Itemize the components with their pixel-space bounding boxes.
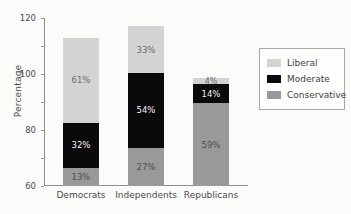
- segment-value-label: 54%: [128, 105, 164, 115]
- legend-label: Moderate: [287, 74, 330, 84]
- bar-republicans: 4%14%59%: [193, 78, 229, 186]
- segment-conservative: 27%: [128, 148, 164, 186]
- bar-independents: 33%54%27%: [128, 26, 164, 186]
- plot-area: 020406080100120 61%32%13%33%54%27%4%14%5…: [44, 18, 248, 186]
- segment-value-label: 14%: [193, 89, 229, 99]
- y-axis-title: Percentage: [13, 46, 23, 136]
- legend-item-conservative[interactable]: Conservative: [267, 87, 338, 103]
- segment-conservative: 59%: [193, 103, 229, 186]
- y-tick-mark: 100: [41, 46, 44, 47]
- y-tick-label: 100: [20, 69, 36, 79]
- x-category-label-republicans: Republicans: [184, 190, 238, 200]
- x-category-label-democrats: Democrats: [56, 190, 105, 200]
- y-tick-mark: 60: [41, 102, 44, 103]
- y-tick-mark: 80: [41, 74, 44, 75]
- y-tick-mark: 20: [41, 158, 44, 159]
- segment-value-label: 59%: [193, 140, 229, 150]
- segment-liberal: 33%: [128, 26, 164, 72]
- stacked-bar-chart: Percentage 020406080100120 61%32%13%33%5…: [0, 0, 351, 214]
- y-tick-label: 120: [20, 13, 36, 23]
- legend-label: Liberal: [287, 58, 317, 68]
- legend: LiberalModerateConservative: [259, 48, 345, 110]
- y-tick-label: 60: [25, 181, 36, 191]
- segment-moderate: 14%: [193, 84, 229, 104]
- y-tick-mark: 120: [41, 18, 44, 19]
- segment-value-label: 32%: [63, 140, 99, 150]
- segment-moderate: 54%: [128, 73, 164, 149]
- legend-swatch-icon: [267, 75, 281, 83]
- segment-value-label: 13%: [63, 172, 99, 182]
- segment-liberal: 61%: [63, 38, 99, 123]
- legend-item-liberal[interactable]: Liberal: [267, 55, 338, 71]
- y-tick-mark: 40: [41, 130, 44, 131]
- legend-item-moderate[interactable]: Moderate: [267, 71, 338, 87]
- segment-value-label: 33%: [128, 45, 164, 55]
- segment-value-label: 27%: [128, 162, 164, 172]
- segment-moderate: 32%: [63, 123, 99, 168]
- y-tick-label: 80: [25, 125, 36, 135]
- legend-swatch-icon: [267, 91, 281, 99]
- bar-democrats: 61%32%13%: [63, 38, 99, 186]
- segment-conservative: 13%: [63, 168, 99, 186]
- y-tick-mark: 0: [41, 186, 44, 187]
- segment-value-label: 61%: [63, 75, 99, 85]
- legend-swatch-icon: [267, 59, 281, 67]
- y-axis-line: [44, 18, 45, 186]
- legend-label: Conservative: [287, 90, 346, 100]
- x-category-label-independents: Independents: [115, 190, 177, 200]
